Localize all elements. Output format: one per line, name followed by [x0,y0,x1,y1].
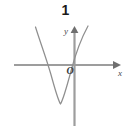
plot-area: y x O [0,0,131,129]
coordinate-plot-svg: y x O [0,0,131,129]
y-axis-arrow-icon [71,26,79,33]
y-axis-label: y [63,26,68,36]
x-axis-label: x [117,68,122,78]
origin-label: O [66,65,73,76]
figure-container: 1 y x O [0,0,131,129]
